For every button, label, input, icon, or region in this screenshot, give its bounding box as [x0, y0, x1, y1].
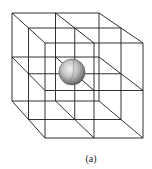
figure-caption: (a)	[15, 153, 152, 164]
center-sphere	[59, 59, 85, 85]
lattice-diagram	[0, 0, 152, 169]
